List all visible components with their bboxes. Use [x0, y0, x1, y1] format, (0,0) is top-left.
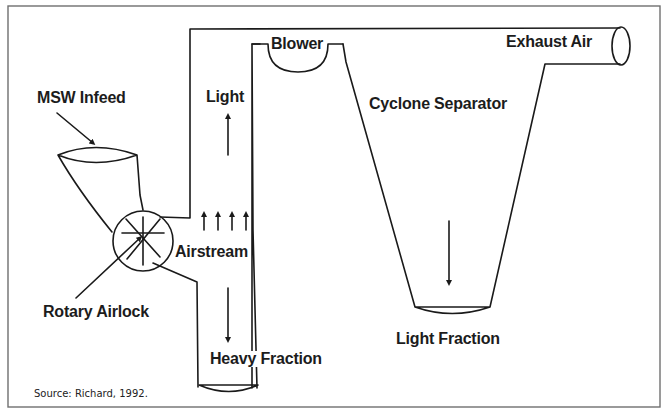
source-citation: Source: Richard, 1992. — [34, 389, 148, 399]
heavy-tube-bottom — [199, 385, 258, 392]
label-heavy-fraction: Heavy Fraction — [210, 351, 322, 367]
label-light-fraction: Light Fraction — [396, 331, 500, 347]
cyclone-separator — [343, 44, 620, 314]
airlock-vanes-icon — [122, 217, 164, 265]
outer-duct — [160, 28, 620, 218]
label-cyclone-separator: Cyclone Separator — [369, 96, 507, 112]
label-blower: Blower — [270, 36, 324, 52]
label-light: Light — [206, 89, 244, 105]
label-airstream: Airstream — [175, 244, 248, 260]
label-msw-infeed: MSW Infeed — [37, 90, 126, 106]
label-exhaust-air: Exhaust Air — [506, 34, 592, 50]
infeed-hopper — [58, 148, 143, 233]
heavy-tube-left-wall — [153, 263, 198, 387]
figure-frame — [8, 6, 660, 407]
inner-duct-wall — [252, 44, 260, 388]
air-classifier-diagram — [0, 0, 666, 418]
exhaust-outlet — [612, 27, 630, 65]
msw-infeed-pointer-arrow — [57, 113, 93, 143]
label-rotary-airlock: Rotary Airlock — [43, 304, 149, 320]
